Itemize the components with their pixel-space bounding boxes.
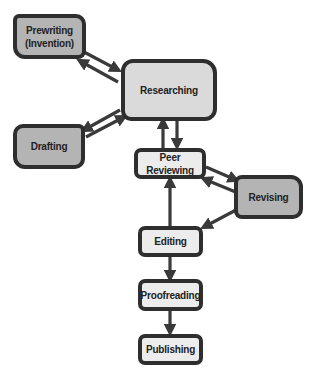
- node-proofreading: Proofreading: [138, 279, 203, 311]
- node-publishing-label: Publishing: [146, 343, 195, 356]
- node-proofreading-label: Proofreading: [141, 289, 201, 302]
- node-revising-label: Revising: [248, 191, 288, 204]
- node-editing: Editing: [138, 226, 203, 257]
- node-prewriting: Prewriting (Invention): [13, 14, 86, 59]
- node-revising: Revising: [234, 175, 303, 219]
- arrow-peer-to-revising: [206, 167, 236, 180]
- node-peer-reviewing-label: Peer Reviewing: [138, 151, 202, 177]
- node-editing-label: Editing: [154, 235, 186, 248]
- node-drafting-label: Drafting: [31, 140, 68, 153]
- node-researching-label: Researching: [140, 84, 198, 97]
- arrow-revising-to-editing: [204, 210, 236, 227]
- node-drafting: Drafting: [13, 124, 85, 169]
- node-publishing: Publishing: [138, 334, 203, 365]
- node-researching: Researching: [121, 59, 217, 121]
- arrow-researching-to-prewriting: [80, 61, 118, 82]
- arrow-revising-to-peer: [204, 179, 238, 193]
- node-peer-reviewing: Peer Reviewing: [134, 148, 206, 179]
- node-prewriting-line1: Prewriting: [26, 24, 73, 37]
- node-prewriting-line2: (Invention): [25, 37, 74, 50]
